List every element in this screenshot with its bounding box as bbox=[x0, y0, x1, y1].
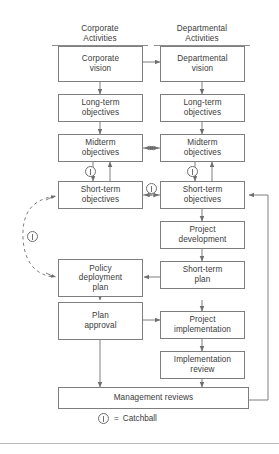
column-header-corporate: Corporate Activities bbox=[52, 24, 148, 46]
column-header-departmental: Departmental Activities bbox=[154, 24, 250, 46]
box-departmental-short-term-objectives-line1: Short-term bbox=[183, 185, 223, 194]
box-departmental-long-term-objectives-line1: Long-term bbox=[183, 98, 221, 107]
diagram-canvas: Corporate Activities Departmental Activi… bbox=[0, 0, 279, 454]
box-project-development-line1: Project bbox=[189, 225, 215, 234]
box-management-reviews[interactable]: Management reviews bbox=[58, 387, 249, 409]
box-policy-deployment-plan-line3: plan bbox=[93, 283, 109, 292]
box-policy-deployment-plan-line2: deployment bbox=[79, 273, 122, 282]
box-short-term-plan-line1: Short-term bbox=[183, 265, 223, 274]
box-project-implementation[interactable]: Project implementation bbox=[160, 311, 245, 339]
box-project-development-line2: development bbox=[179, 235, 227, 244]
box-corporate-vision-line2: vision bbox=[90, 64, 112, 73]
column-header-corporate-line1: Corporate bbox=[52, 24, 148, 34]
box-corporate-vision[interactable]: Corporate vision bbox=[58, 46, 143, 82]
box-corporate-short-term-objectives-line1: Short-term bbox=[81, 185, 121, 194]
box-departmental-midterm-objectives[interactable]: Midterm objectives bbox=[160, 134, 245, 162]
box-departmental-midterm-objectives-line1: Midterm bbox=[187, 138, 217, 147]
box-implementation-review-line1: Implementation bbox=[174, 355, 231, 364]
box-corporate-long-term-objectives[interactable]: Long-term objectives bbox=[58, 94, 143, 122]
box-corporate-midterm-objectives[interactable]: Midterm objectives bbox=[58, 134, 143, 162]
box-implementation-review-line2: review bbox=[190, 365, 214, 374]
box-departmental-short-term-objectives-line2: objectives bbox=[184, 195, 221, 204]
box-departmental-vision-line2: vision bbox=[192, 64, 214, 73]
catchball-icon-dashed-loop bbox=[27, 231, 38, 242]
box-corporate-midterm-objectives-line1: Midterm bbox=[85, 138, 115, 147]
legend-equals: = bbox=[114, 414, 119, 423]
box-policy-deployment-plan-line1: Policy bbox=[89, 264, 111, 273]
box-departmental-long-term-objectives-line2: objectives bbox=[184, 108, 221, 117]
box-departmental-midterm-objectives-line2: objectives bbox=[184, 148, 221, 157]
box-plan-approval-line1: Plan bbox=[92, 311, 109, 320]
column-header-corporate-line2: Activities bbox=[52, 34, 148, 44]
box-project-development[interactable]: Project development bbox=[160, 221, 245, 249]
box-short-term-plan[interactable]: Short-term plan bbox=[160, 261, 245, 289]
catchball-icon-corporate-mid-short bbox=[85, 166, 96, 177]
box-plan-approval-line2: approval bbox=[84, 321, 116, 330]
box-project-implementation-line1: Project bbox=[189, 315, 215, 324]
box-corporate-midterm-objectives-line2: objectives bbox=[82, 148, 119, 157]
box-corporate-long-term-objectives-line1: Long-term bbox=[81, 98, 119, 107]
footer-rule bbox=[0, 443, 279, 444]
box-corporate-long-term-objectives-line2: objectives bbox=[82, 108, 119, 117]
box-departmental-short-term-objectives[interactable]: Short-term objectives bbox=[160, 181, 245, 209]
catchball-icon-between-short-term bbox=[146, 183, 157, 194]
box-short-term-plan-line2: plan bbox=[195, 275, 211, 284]
box-policy-deployment-plan[interactable]: Policy deployment plan bbox=[58, 259, 143, 297]
column-header-departmental-line2: Activities bbox=[154, 34, 250, 44]
box-management-reviews-label: Management reviews bbox=[114, 393, 194, 403]
box-corporate-short-term-objectives[interactable]: Short-term objectives bbox=[58, 181, 143, 209]
box-implementation-review[interactable]: Implementation review bbox=[160, 351, 245, 379]
box-plan-approval[interactable]: Plan approval bbox=[58, 302, 143, 340]
box-project-implementation-line2: implementation bbox=[174, 325, 231, 334]
box-departmental-vision[interactable]: Departmental vision bbox=[160, 46, 245, 82]
box-corporate-short-term-objectives-line2: objectives bbox=[82, 195, 119, 204]
catchball-icon-legend bbox=[98, 413, 109, 424]
box-corporate-vision-line1: Corporate bbox=[82, 54, 119, 63]
column-header-departmental-line1: Departmental bbox=[154, 24, 250, 34]
catchball-icon-departmental-mid-short bbox=[187, 166, 198, 177]
box-departmental-vision-line1: Departmental bbox=[177, 54, 227, 63]
box-departmental-long-term-objectives[interactable]: Long-term objectives bbox=[160, 94, 245, 122]
legend: = Catchball bbox=[98, 413, 157, 424]
legend-label: Catchball bbox=[123, 414, 157, 423]
